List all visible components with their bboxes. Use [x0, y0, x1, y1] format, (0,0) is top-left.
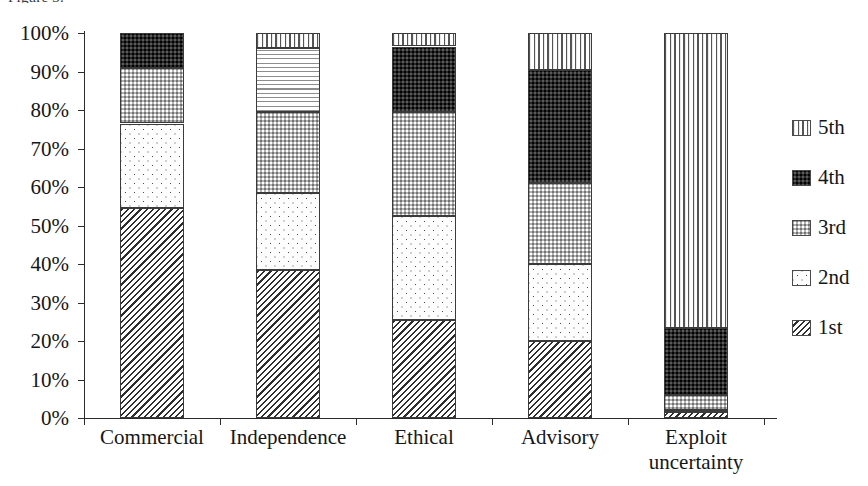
- legend-label-4th: 4th: [818, 165, 845, 189]
- legend-label-2nd: 2nd: [818, 265, 850, 289]
- bar-exploit-uncertainty-segment-1st[interactable]: [664, 412, 728, 418]
- x-axis-labels: Commercial Independence Ethical Advisory…: [84, 425, 776, 485]
- legend-label-5th: 5th: [818, 115, 845, 139]
- x-tick-0: [84, 418, 85, 425]
- x-axis-label-exploit-line2: uncertainty: [628, 450, 764, 475]
- bar-commercial-segment-1st[interactable]: [120, 208, 184, 418]
- y-tick-label-40: 40%: [31, 254, 70, 275]
- legend-swatch-3rd-icon: [792, 220, 811, 236]
- plot-area: 100% 90% 80% 70% 60% 50% 40% 30% 20% 10%: [84, 33, 776, 418]
- y-tick-label-30: 30%: [31, 292, 70, 313]
- x-tick-1: [220, 418, 221, 425]
- bar-advisory-segment-5th[interactable]: [528, 33, 592, 70]
- x-tick-3: [492, 418, 493, 425]
- y-tick-label-90: 90%: [31, 61, 70, 82]
- bar-ethical[interactable]: [392, 33, 456, 418]
- y-tick-label-100: 100%: [20, 23, 69, 44]
- bar-independence-segment-4th[interactable]: [256, 48, 320, 112]
- legend-label-1st: 1st: [818, 315, 843, 339]
- y-tick-label-80: 80%: [31, 100, 70, 121]
- caption-remnant: Figure 3.: [8, 0, 64, 3]
- bar-ethical-segment-5th[interactable]: [392, 33, 456, 46]
- y-tick-60: 60%: [78, 187, 84, 188]
- y-tick-label-0: 0%: [41, 408, 69, 429]
- bar-commercial[interactable]: [120, 33, 184, 418]
- bar-exploit-uncertainty-segment-3rd[interactable]: [664, 395, 728, 410]
- bar-independence[interactable]: [256, 33, 320, 418]
- y-tick-90: 90%: [78, 72, 84, 73]
- legend-swatch-4th-icon: [792, 170, 811, 186]
- y-tick-label-20: 20%: [31, 331, 70, 352]
- x-axis-line: [83, 418, 777, 419]
- x-tick-2: [356, 418, 357, 425]
- bar-ethical-segment-3rd[interactable]: [392, 112, 456, 216]
- legend-swatch-1st-icon: [792, 320, 811, 336]
- x-tick-5: [764, 418, 765, 425]
- bar-independence-segment-3rd[interactable]: [256, 112, 320, 193]
- legend-item-2nd[interactable]: 2nd: [792, 268, 866, 318]
- bar-ethical-segment-4th[interactable]: [392, 47, 456, 112]
- chart-page: Figure 3. 100% 90% 80% 70% 60% 50% 40% 3…: [0, 0, 868, 486]
- y-tick-50: 50%: [78, 226, 84, 227]
- y-axis-line: [84, 31, 85, 420]
- legend-item-4th[interactable]: 4th: [792, 168, 866, 218]
- x-axis-label-commercial: Commercial: [84, 425, 220, 450]
- x-axis-label-independence-text: Independence: [230, 425, 347, 449]
- legend-item-3rd[interactable]: 3rd: [792, 218, 866, 268]
- legend-swatch-2nd-icon: [792, 270, 811, 286]
- bar-independence-segment-1st[interactable]: [256, 270, 320, 418]
- bar-commercial-segment-4th[interactable]: [120, 33, 184, 68]
- y-tick-label-50: 50%: [31, 215, 70, 236]
- x-axis-label-ethical: Ethical: [356, 425, 492, 450]
- bar-advisory-segment-3rd[interactable]: [528, 183, 592, 264]
- x-axis-label-independence: Independence: [220, 425, 356, 450]
- y-tick-30: 30%: [78, 303, 84, 304]
- y-tick-label-10: 10%: [31, 369, 70, 390]
- bar-commercial-segment-3rd[interactable]: [120, 68, 184, 124]
- y-tick-70: 70%: [78, 149, 84, 150]
- bar-advisory-segment-4th[interactable]: [528, 70, 592, 184]
- y-tick-label-60: 60%: [31, 177, 70, 198]
- legend-item-1st[interactable]: 1st: [792, 318, 866, 368]
- x-axis-label-exploit-uncertainty: Exploit uncertainty: [628, 425, 764, 475]
- y-tick-80: 80%: [78, 110, 84, 111]
- x-axis-label-advisory-text: Advisory: [521, 425, 599, 449]
- legend-swatch-5th-icon: [792, 120, 811, 136]
- x-tick-4: [628, 418, 629, 425]
- bar-exploit-uncertainty-segment-5th[interactable]: [664, 33, 728, 328]
- bar-advisory-segment-2nd[interactable]: [528, 264, 592, 341]
- bar-independence-segment-2nd[interactable]: [256, 193, 320, 270]
- bar-commercial-segment-2nd[interactable]: [120, 124, 184, 209]
- bar-exploit-uncertainty-segment-4th[interactable]: [664, 328, 728, 395]
- y-tick-100: 100%: [78, 33, 84, 34]
- x-axis-label-exploit-line1: Exploit: [665, 425, 727, 449]
- bar-ethical-segment-1st[interactable]: [392, 320, 456, 418]
- bar-advisory-segment-1st[interactable]: [528, 341, 592, 418]
- y-tick-20: 20%: [78, 341, 84, 342]
- y-tick-10: 10%: [78, 380, 84, 381]
- bar-advisory[interactable]: [528, 33, 592, 418]
- bar-exploit-uncertainty[interactable]: [664, 33, 728, 418]
- x-axis-label-ethical-text: Ethical: [394, 425, 453, 449]
- y-tick-label-70: 70%: [31, 138, 70, 159]
- bar-exploit-uncertainty-segment-2nd[interactable]: [664, 410, 728, 412]
- legend-label-3rd: 3rd: [818, 215, 846, 239]
- legend-item-5th[interactable]: 5th: [792, 118, 866, 168]
- bar-independence-segment-5th[interactable]: [256, 33, 320, 48]
- bar-ethical-segment-2nd[interactable]: [392, 216, 456, 320]
- x-axis-label-commercial-text: Commercial: [100, 425, 204, 449]
- y-tick-40: 40%: [78, 264, 84, 265]
- x-axis-label-advisory: Advisory: [492, 425, 628, 450]
- legend: 5th 4th 3rd 2nd 1st: [792, 118, 866, 368]
